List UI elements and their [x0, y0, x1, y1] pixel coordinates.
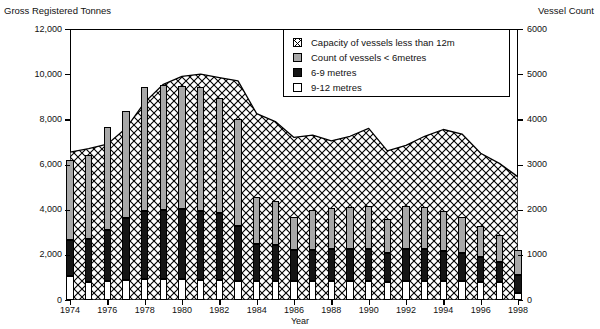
bar-segment-s69	[346, 249, 353, 281]
x-tick-label: 1994	[423, 305, 463, 315]
bar-segment-s69	[496, 262, 503, 283]
legend-swatch-crosshatch-icon	[293, 38, 302, 47]
x-axis-title: Year	[0, 316, 600, 326]
y2-tick-label: 3000	[527, 160, 547, 169]
y2-tick-label: 5000	[527, 70, 547, 79]
stacked-bar	[458, 217, 465, 300]
legend-item-9-12-metres: 9-12 metres	[293, 80, 509, 95]
bar-segment-s69	[440, 251, 447, 281]
stacked-bar	[234, 119, 241, 300]
bar-segment-s912	[272, 281, 279, 300]
legend-item-capacity: Capacity of vessels less than 12m	[293, 35, 509, 50]
bar-segment-s912	[346, 281, 353, 300]
stacked-bar	[216, 98, 223, 300]
bar-segment-s69	[178, 209, 185, 279]
y-tick-label: 4,000	[0, 205, 62, 214]
bar-segment-s6	[346, 207, 353, 249]
y-tick-label: 12,000	[0, 25, 62, 34]
y-tick	[65, 119, 70, 120]
bar-segment-s69	[216, 213, 223, 280]
bar-segment-s6	[440, 211, 447, 252]
bar-segment-s6	[66, 160, 73, 240]
bar-segment-s912	[253, 281, 260, 300]
bar-segment-s69	[458, 253, 465, 282]
bar-segment-s69	[402, 249, 409, 281]
stacked-bar	[253, 197, 260, 300]
y2-tick-label: 6000	[527, 25, 547, 34]
x-tick-label: 1986	[274, 305, 314, 315]
bar-segment-s912	[309, 281, 316, 300]
x-tick-label: 1980	[162, 305, 202, 315]
bar-segment-s69	[85, 239, 92, 282]
bar-segment-s912	[234, 281, 241, 300]
bar-segment-s6	[253, 197, 260, 244]
y-tick	[65, 74, 70, 75]
y2-tick	[518, 74, 523, 75]
legend-label: 6-9 metres	[311, 68, 356, 78]
y-tick	[65, 165, 70, 166]
legend-label: Count of vessels < 6metres	[311, 53, 426, 63]
bar-segment-s69	[384, 253, 391, 282]
bar-segment-s69	[290, 250, 297, 281]
bar-segment-s912	[365, 281, 372, 300]
y-tick	[65, 210, 70, 211]
bar-segment-s69	[122, 218, 129, 280]
bar-segment-s6	[122, 111, 129, 218]
bar-segment-s69	[328, 249, 335, 282]
y-tick	[65, 255, 70, 256]
y2-tick-label: 2000	[527, 205, 547, 214]
y-tick-label: 0	[0, 296, 62, 305]
legend-item-6-9-metres: 6-9 metres	[293, 65, 509, 80]
bar-segment-s6	[328, 208, 335, 249]
bar-segment-s912	[477, 282, 484, 300]
stacked-bar	[496, 235, 503, 300]
x-tick-label: 1988	[311, 305, 351, 315]
stacked-bar	[141, 87, 148, 300]
bar-segment-s69	[514, 275, 521, 293]
y2-tick-label: 0	[527, 296, 532, 305]
bar-segment-s69	[272, 245, 279, 281]
chart-legend: Capacity of vessels less than 12m Count …	[283, 29, 510, 97]
bar-segment-s912	[85, 282, 92, 300]
y2-tick	[518, 210, 523, 211]
bar-segment-s6	[234, 119, 241, 226]
stacked-bar	[421, 207, 428, 300]
legend-label: Capacity of vessels less than 12m	[311, 38, 455, 48]
stacked-bar	[160, 85, 167, 300]
bar-segment-s912	[197, 280, 204, 300]
legend-swatch-black-icon	[293, 68, 302, 77]
stacked-bar	[309, 210, 316, 300]
y-tick	[65, 300, 70, 301]
bar-segment-s6	[104, 127, 111, 230]
y2-tick	[518, 255, 523, 256]
bar-segment-s69	[141, 211, 148, 279]
x-tick-label: 1990	[349, 305, 389, 315]
bar-segment-s6	[384, 219, 391, 252]
legend-swatch-gray-icon	[293, 53, 302, 62]
bar-segment-s912	[178, 279, 185, 300]
left-axis-title: Gross Registered Tonnes	[4, 6, 111, 16]
stacked-bar	[104, 127, 111, 300]
stacked-bar	[346, 207, 353, 300]
x-tick-label: 1996	[461, 305, 501, 315]
bar-segment-s912	[402, 281, 409, 300]
y-tick-label: 10,000	[0, 70, 62, 79]
bar-segment-s912	[160, 279, 167, 300]
bar-segment-s6	[290, 217, 297, 250]
bar-segment-s69	[477, 257, 484, 282]
bar-segment-s912	[496, 282, 503, 300]
y2-tick	[518, 300, 523, 301]
stacked-bar	[85, 155, 92, 300]
bar-segment-s912	[290, 281, 297, 300]
bar-segment-s69	[253, 244, 260, 281]
stacked-bar	[402, 206, 409, 300]
bar-segment-s912	[421, 281, 428, 300]
x-tick-label: 1984	[237, 305, 277, 315]
x-tick-label: 1976	[87, 305, 127, 315]
bar-segment-s6	[141, 87, 148, 212]
x-tick-label: 1982	[199, 305, 239, 315]
bar-segment-s6	[197, 87, 204, 210]
bar-segment-s6	[272, 201, 279, 245]
bar-segment-s6	[458, 217, 465, 253]
x-tick-label: 1992	[386, 305, 426, 315]
